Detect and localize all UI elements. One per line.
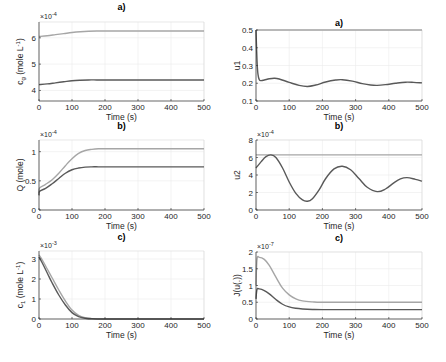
y-tick-label: 1 xyxy=(32,148,37,157)
x-axis-label: Time (s) xyxy=(106,330,137,340)
y-tick-label: 0.5 xyxy=(25,177,37,186)
panel-q: 010020030040050000.51×10-4b)Time (s)Q (m… xyxy=(15,121,211,231)
x-tick-label: 300 xyxy=(131,212,145,221)
y-axis-label: u2 xyxy=(232,170,242,180)
x-tick-label: 500 xyxy=(197,103,211,112)
x-tick-label: 100 xyxy=(283,212,297,221)
x-axis-label: Time (s) xyxy=(106,221,137,231)
panel-j: 010020030040050000.511.52×10-7c)Time (s)… xyxy=(232,233,429,340)
x-tick-label: 0 xyxy=(37,321,42,330)
y-tick-label: 2 xyxy=(249,189,254,198)
y-axis-label: c1 (mole L-1) xyxy=(15,262,26,309)
y-tick-label: 4 xyxy=(32,86,37,95)
x-tick-label: 400 xyxy=(164,321,178,330)
panel-title: a) xyxy=(117,2,125,12)
panel-title: b) xyxy=(117,121,126,131)
x-axis-label: Time (s) xyxy=(324,221,355,231)
x-tick-label: 400 xyxy=(382,321,396,330)
y-exponent-label: ×10-3 xyxy=(40,240,57,249)
y-tick-label: 1.5 xyxy=(242,265,254,274)
x-tick-label: 500 xyxy=(415,212,429,221)
y-tick-label: 2 xyxy=(249,248,254,257)
y-tick-label: 0.2 xyxy=(242,79,254,88)
y-tick-label: 5 xyxy=(32,60,37,69)
x-tick-label: 0 xyxy=(254,212,259,221)
y-tick-label: 0 xyxy=(32,206,37,215)
x-tick-label: 100 xyxy=(283,321,297,330)
y-tick-label: 0.5 xyxy=(242,298,254,307)
x-tick-label: 0 xyxy=(37,212,42,221)
x-tick-label: 100 xyxy=(65,212,79,221)
y-axis-label: u1 xyxy=(232,61,242,71)
panel-c1: 01002003004005000123×10-3c)Time (s)c1 (m… xyxy=(15,232,211,340)
x-tick-label: 200 xyxy=(316,321,330,330)
x-tick-label: 300 xyxy=(349,103,363,112)
y-tick-label: 0 xyxy=(249,315,254,324)
x-tick-label: 500 xyxy=(415,103,429,112)
x-tick-label: 200 xyxy=(316,103,330,112)
x-tick-label: 0 xyxy=(254,321,259,330)
x-tick-label: 0 xyxy=(37,103,42,112)
panel-u1: 01002003004005000.10.20.30.40.5a)Time (s… xyxy=(232,18,429,122)
x-tick-label: 100 xyxy=(283,103,297,112)
y-exponent-label: ×10-4 xyxy=(257,129,274,138)
y-tick-label: 0 xyxy=(32,315,37,324)
x-tick-label: 100 xyxy=(65,103,79,112)
y-axis-label: cg (mole L-1) xyxy=(15,38,26,85)
panel-title: c) xyxy=(117,232,125,242)
panel-title: a) xyxy=(335,18,343,28)
y-tick-label: 0.3 xyxy=(242,62,254,71)
x-tick-label: 0 xyxy=(254,103,259,112)
x-tick-label: 200 xyxy=(98,103,112,112)
x-tick-label: 500 xyxy=(415,321,429,330)
panel-cg: 0100200300400500456×10-4a)Time (s)cg (mo… xyxy=(15,2,211,122)
y-tick-label: 6 xyxy=(249,154,254,163)
x-tick-label: 400 xyxy=(382,103,396,112)
y-exponent-label: ×10-4 xyxy=(40,129,57,138)
y-tick-label: 3 xyxy=(32,255,37,264)
y-axis-label: Q (mole) xyxy=(15,158,25,191)
y-exponent-label: ×10-7 xyxy=(257,241,274,250)
x-tick-label: 300 xyxy=(349,321,363,330)
x-tick-label: 400 xyxy=(164,103,178,112)
y-tick-label: 2 xyxy=(32,275,37,284)
y-tick-label: 8 xyxy=(249,136,254,145)
y-exponent-label: ×10-4 xyxy=(40,11,57,20)
y-tick-label: 0.5 xyxy=(242,26,254,35)
y-tick-label: 1 xyxy=(32,295,37,304)
panel-title: c) xyxy=(335,233,343,243)
y-tick-label: 0.1 xyxy=(242,97,254,106)
y-tick-label: 0.4 xyxy=(242,44,254,53)
x-tick-label: 400 xyxy=(164,212,178,221)
x-tick-label: 200 xyxy=(98,321,112,330)
y-tick-label: 6 xyxy=(32,34,37,43)
figure: 0100200300400500456×10-4a)Time (s)cg (mo… xyxy=(0,0,446,362)
x-tick-label: 300 xyxy=(131,103,145,112)
panel-u2: 010020030040050002468×10-4b)Time (s)u2 xyxy=(232,121,429,231)
y-tick-label: 0 xyxy=(249,206,254,215)
x-tick-label: 300 xyxy=(131,321,145,330)
y-axis-label: J(u(.)) xyxy=(232,274,242,297)
y-tick-label: 4 xyxy=(249,171,254,180)
x-tick-label: 500 xyxy=(197,212,211,221)
x-tick-label: 100 xyxy=(65,321,79,330)
x-tick-label: 500 xyxy=(197,321,211,330)
y-tick-label: 1 xyxy=(249,282,254,291)
x-tick-label: 200 xyxy=(316,212,330,221)
panel-title: b) xyxy=(335,121,344,131)
x-tick-label: 400 xyxy=(382,212,396,221)
plot-area xyxy=(39,251,204,319)
x-tick-label: 300 xyxy=(349,212,363,221)
x-axis-label: Time (s) xyxy=(324,330,355,340)
x-tick-label: 200 xyxy=(98,212,112,221)
